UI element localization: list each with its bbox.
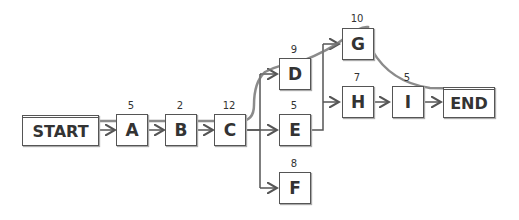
- node-h: H: [342, 86, 374, 118]
- node-i: I: [392, 86, 424, 118]
- duration-i: 5: [392, 72, 422, 83]
- node-start: START: [22, 115, 99, 146]
- diagram-connectors: [0, 0, 519, 220]
- duration-h: 7: [342, 72, 372, 83]
- duration-g: 10: [342, 13, 372, 24]
- node-b: B: [165, 114, 197, 146]
- duration-a: 5: [116, 100, 146, 111]
- node-f: F: [279, 172, 311, 204]
- node-e: E: [279, 114, 311, 146]
- node-a: A: [116, 114, 148, 146]
- duration-c: 12: [214, 100, 244, 111]
- node-end: END: [443, 87, 495, 118]
- node-g: G: [342, 28, 374, 60]
- node-c: C: [214, 114, 246, 146]
- duration-b: 2: [165, 100, 195, 111]
- duration-e: 5: [279, 100, 309, 111]
- duration-d: 9: [279, 44, 309, 55]
- duration-f: 8: [279, 158, 309, 169]
- node-d: D: [279, 58, 311, 90]
